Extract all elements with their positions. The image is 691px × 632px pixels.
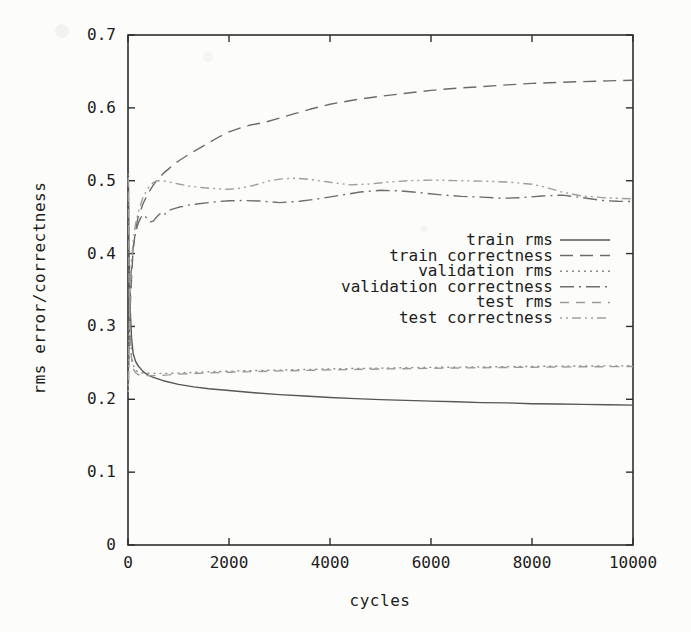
chart-canvas: 020004000600080001000000.10.20.30.40.50.… bbox=[0, 0, 691, 632]
y-tick-label: 0.2 bbox=[87, 389, 116, 408]
x-tick-label: 2000 bbox=[210, 553, 249, 572]
x-tick-label: 10000 bbox=[609, 553, 657, 572]
x-axis-ticks: 0200040006000800010000 bbox=[123, 35, 657, 572]
y-tick-label: 0.4 bbox=[87, 244, 116, 263]
y-tick-label: 0.5 bbox=[87, 171, 116, 190]
y-axis-title: rms error/correctness bbox=[30, 182, 49, 395]
scan-artifact bbox=[203, 52, 213, 62]
scan-artifact bbox=[55, 24, 69, 38]
series-group bbox=[128, 80, 633, 405]
y-tick-label: 0.1 bbox=[87, 462, 116, 481]
y-tick-label: 0.3 bbox=[87, 316, 116, 335]
x-tick-label: 8000 bbox=[513, 553, 552, 572]
x-tick-label: 0 bbox=[123, 553, 133, 572]
y-tick-label: 0.7 bbox=[87, 25, 116, 44]
y-tick-label: 0 bbox=[106, 535, 116, 554]
x-tick-label: 4000 bbox=[311, 553, 350, 572]
scan-artifact bbox=[420, 225, 428, 233]
x-tick-label: 6000 bbox=[412, 553, 451, 572]
series-line-train-correctness bbox=[128, 80, 633, 388]
legend-row-test-correctness: test correctness bbox=[399, 308, 610, 327]
scanned-plot-figure: 020004000600080001000000.10.20.30.40.50.… bbox=[0, 0, 691, 632]
legend: train rmstrain correctnessvalidation rms… bbox=[341, 230, 610, 327]
legend-label: test correctness bbox=[399, 308, 553, 327]
x-axis-title: cycles bbox=[350, 591, 411, 610]
y-tick-label: 0.6 bbox=[87, 98, 116, 117]
